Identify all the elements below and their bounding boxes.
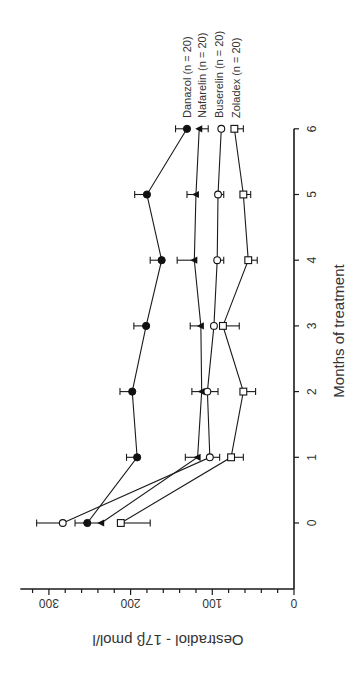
y-tick-label: 200 (120, 596, 140, 610)
open-square-marker (220, 323, 227, 330)
filled-triangle-marker (190, 257, 197, 264)
x-tick-label: 1 (305, 454, 319, 461)
filled-circle-marker (129, 388, 136, 395)
filled-circle-marker (183, 125, 190, 132)
open-circle-marker (206, 454, 213, 461)
open-square-marker (240, 191, 247, 198)
open-circle-marker (214, 257, 221, 264)
filled-circle-marker (143, 191, 150, 198)
open-square-marker (228, 454, 235, 461)
x-tick-label: 6 (305, 125, 319, 132)
legend-item-nafarelin: Nafarelin (n = 20) (196, 33, 208, 118)
open-square-marker (231, 125, 238, 132)
rotated-chart-stage: 01234560100200300 Danazol (n = 20)Nafare… (0, 0, 356, 674)
x-tick-label: 3 (305, 322, 319, 329)
x-tick-label: 4 (305, 257, 319, 264)
legend: Danazol (n = 20)Nafarelin (n = 20)Busere… (181, 31, 242, 118)
x-tick-label: 2 (305, 388, 319, 395)
legend-item-buserelin: Buserelin (n = 20) (213, 31, 225, 118)
x-tick-label: 0 (305, 519, 319, 526)
open-circle-marker (204, 388, 211, 395)
open-circle-marker (211, 323, 218, 330)
filled-circle-marker (143, 322, 150, 329)
y-axis-label: Oestradiol - 17β pmol/l (92, 632, 243, 649)
series-group (37, 125, 258, 526)
open-circle-marker (59, 520, 66, 527)
open-circle-marker (215, 191, 222, 198)
y-tick-label: 300 (39, 596, 59, 610)
open-square-marker (245, 257, 252, 264)
y-tick-label: 100 (202, 596, 222, 610)
axes: 01234560100200300 (20, 125, 319, 610)
oestradiol-line-chart: 01234560100200300 Danazol (n = 20)Nafare… (0, 0, 356, 674)
filled-circle-marker (134, 454, 141, 461)
filled-triangle-marker (97, 519, 104, 526)
filled-circle-marker (158, 257, 165, 264)
y-tick-label: 0 (290, 596, 297, 610)
legend-item-danazol: Danazol (n = 20) (181, 36, 193, 118)
open-circle-marker (218, 125, 225, 132)
x-tick-label: 5 (305, 191, 319, 198)
legend-item-zoladex: Zoladex (n = 20) (230, 38, 242, 118)
open-square-marker (117, 520, 124, 527)
series-danazol (75, 125, 191, 526)
x-axis-label: Months of treatment (330, 263, 347, 397)
open-square-marker (240, 388, 247, 395)
